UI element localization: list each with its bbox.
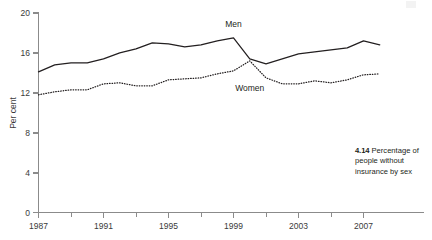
- x-tick-label-1987: 1987: [29, 221, 48, 231]
- figure-caption: 4.14 Percentage of people without insura…: [355, 146, 431, 177]
- y-tick-label-4: 4: [25, 168, 30, 178]
- x-tick-label-2003: 2003: [289, 221, 308, 231]
- series-label-men: Men: [225, 19, 242, 29]
- y-tick-label-16: 16: [21, 48, 31, 58]
- y-tick-label-20: 20: [21, 8, 31, 18]
- x-axis-ticks: [39, 213, 364, 219]
- series-label-women: Women: [235, 83, 264, 93]
- y-tick-label-0: 0: [25, 208, 30, 218]
- x-tick-label-1995: 1995: [159, 221, 178, 231]
- x-tick-label-2007: 2007: [354, 221, 373, 231]
- figure-container: 20 16 12 8 4 0 Per cent 1987 1991 1995 1…: [0, 0, 432, 240]
- page-corner-artifact: [406, 1, 416, 8]
- y-axis-tick-labels: 20 16 12 8 4 0: [21, 8, 31, 218]
- series-line-women: [39, 61, 380, 95]
- x-tick-label-1991: 1991: [94, 221, 113, 231]
- x-tick-label-1999: 1999: [224, 221, 243, 231]
- y-axis-title: Per cent: [8, 97, 18, 129]
- y-tick-label-8: 8: [25, 128, 30, 138]
- caption-number: 4.14: [355, 146, 369, 155]
- y-axis-ticks: [33, 13, 39, 213]
- line-chart: 20 16 12 8 4 0 Per cent 1987 1991 1995 1…: [0, 0, 432, 240]
- y-tick-label-12: 12: [21, 88, 31, 98]
- x-axis-tick-labels: 1987 1991 1995 1999 2003 2007: [29, 221, 373, 231]
- series-line-men: [39, 38, 380, 72]
